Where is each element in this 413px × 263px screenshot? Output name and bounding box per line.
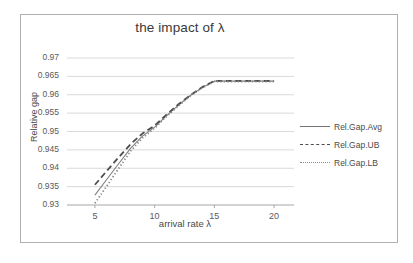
x-axis-title: arrival rate λ [95, 218, 275, 229]
y-axis-tick-label: 0.93 [25, 199, 59, 209]
legend-label: Rel.Gap.LB [330, 158, 378, 168]
legend-swatch-dotted [300, 158, 330, 168]
chart-legend: Rel.Gap.AvgRel.Gap.UBRel.Gap.LB [300, 118, 400, 172]
series-line-rel-gap-ub [95, 81, 274, 185]
y-axis-tick-label: 0.97 [25, 52, 59, 62]
legend-label: Rel.Gap.UB [330, 140, 379, 150]
legend-item[interactable]: Rel.Gap.Avg [300, 118, 400, 136]
y-axis-tick-label: 0.935 [25, 181, 59, 191]
series-line-rel-gap-avg [95, 81, 274, 195]
data-series-group [95, 81, 274, 203]
series-line-rel-gap-lb [95, 82, 274, 204]
chart-figure: the impact of λ 0.930.9350.940.9450.950.… [0, 0, 413, 263]
legend-label: Rel.Gap.Avg [330, 122, 382, 132]
y-axis-tick-label: 0.94 [25, 162, 59, 172]
legend-swatch-solid [300, 122, 330, 132]
legend-item[interactable]: Rel.Gap.LB [300, 154, 400, 172]
y-axis-title: Relative gap [29, 77, 39, 157]
legend-item[interactable]: Rel.Gap.UB [300, 136, 400, 154]
legend-swatch-dashed [300, 140, 330, 150]
